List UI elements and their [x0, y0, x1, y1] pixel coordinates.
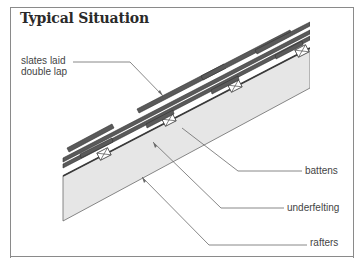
leader-rafters [142, 177, 307, 245]
roof-section-illustration [0, 0, 363, 263]
leader-slates [73, 62, 163, 96]
